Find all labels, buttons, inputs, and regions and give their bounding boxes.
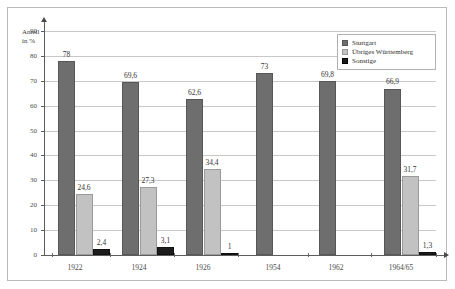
legend-item-uebriges-wuerttemberg: Übriges Württemberg [342,48,431,56]
x-tick-label: 1954 [246,263,300,272]
legend-item-sonstige: Sonstige [342,57,431,65]
bar-value-label: 27,3 [133,176,164,185]
x-axis-arrow-icon [444,252,449,258]
legend-label-sonstige: Sonstige [352,57,376,65]
gridline [44,106,436,107]
bar-value-label: 73 [249,62,280,71]
legend-swatch-stuttgart [342,40,348,46]
bar-value-label: 66,9 [377,77,408,86]
x-axis-line [44,255,444,256]
gridline [44,31,436,32]
bar-value-label: 69,8 [312,70,343,79]
bar [186,99,203,255]
gridline [44,180,436,181]
y-tick-label: 80 [13,52,37,60]
y-tick-label: 10 [13,226,37,234]
bar-value-label: 24,6 [69,183,100,192]
legend-item-stuttgart: Stuttgart [342,39,431,47]
figure-frame: Anteil in % 0102030405060708090 7824,62,… [7,7,447,281]
x-tick-label: 1926 [176,263,230,272]
legend-label-uebriges-wuerttemberg: Übriges Württemberg [352,48,413,56]
bar [58,61,75,255]
bar-value-label: 31,7 [395,165,426,174]
y-tick-label: 40 [13,151,37,159]
y-axis-title-line2: in % [22,37,40,46]
legend-label-stuttgart: Stuttgart [352,39,376,47]
y-tick-label: 0 [13,251,37,259]
bar-value-label: 69,6 [115,71,146,80]
x-tick-label: 1922 [48,263,102,272]
x-tick-label: 1962 [309,263,363,272]
gridline [44,155,436,156]
y-tick-label: 30 [13,176,37,184]
legend-swatch-sonstige [342,58,348,64]
y-tick-label: 90 [13,27,37,35]
bar [122,82,139,255]
gridline [44,131,436,132]
bar [256,73,273,255]
gridline [44,230,436,231]
y-axis-arrow-icon [41,17,47,22]
chart-figure: Anteil in % 0102030405060708090 7824,62,… [0,0,455,289]
bar-value-label: 62,6 [179,88,210,97]
bar [319,81,336,255]
gridline [44,205,436,206]
y-tick-label: 70 [13,77,37,85]
bar-value-label: 1 [214,242,245,251]
bar [157,247,174,255]
bar-value-label: 3,1 [150,236,181,245]
y-tick-label: 20 [13,201,37,209]
y-tick-label: 50 [13,127,37,135]
bar-value-label: 1,3 [412,241,443,250]
bar-value-label: 34,4 [197,158,228,167]
x-tick-label: 1964/65 [374,263,428,272]
bar-value-label: 2,4 [86,238,117,247]
x-tick-label: 1924 [112,263,166,272]
y-axis-line [44,22,45,255]
legend-swatch-uebriges-wuerttemberg [342,49,348,55]
legend: Stuttgart Übriges Württemberg Sonstige [337,34,436,70]
bar-value-label: 78 [51,50,82,59]
y-tick-label: 60 [13,102,37,110]
